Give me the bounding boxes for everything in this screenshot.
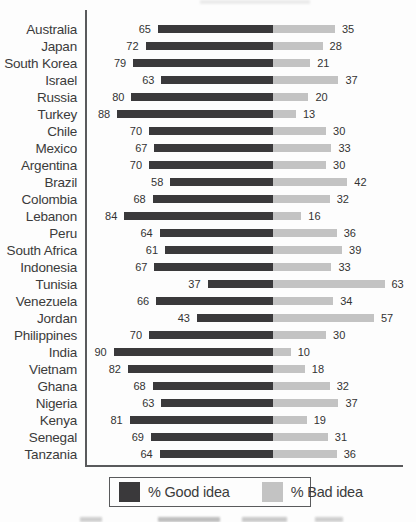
bad-value-label: 20 [315, 89, 327, 106]
good-value-label: 64 [140, 446, 152, 463]
bar-row: Argentina7030 [0, 157, 416, 174]
country-label: Chile [0, 123, 77, 140]
bad-bar [273, 314, 374, 322]
bad-bar [273, 348, 291, 356]
bad-value-label: 39 [349, 242, 361, 259]
bar-row: Tunisia3763 [0, 276, 416, 293]
bar-row: Israel6337 [0, 72, 416, 89]
good-bar [124, 212, 273, 220]
good-bar [130, 416, 273, 424]
good-bar [133, 59, 273, 67]
bad-value-label: 57 [381, 310, 393, 327]
bad-value-label: 37 [345, 395, 357, 412]
country-label: Venezuela [0, 293, 77, 310]
country-label: Senegal [0, 429, 77, 446]
country-label: Brazil [0, 174, 77, 191]
bad-value-label: 34 [340, 293, 352, 310]
bad-value-label: 30 [333, 157, 345, 174]
bad-value-label: 42 [354, 174, 366, 191]
good-bar [161, 76, 273, 84]
country-label: Vietnam [0, 361, 77, 378]
bad-bar [273, 93, 308, 101]
bad-bar [273, 331, 326, 339]
good-bar [151, 433, 273, 441]
country-label: Mexico [0, 140, 77, 157]
bad-bar [273, 25, 335, 33]
good-bar [154, 144, 273, 152]
good-value-label: 80 [112, 89, 124, 106]
bad-idea-swatch-icon [262, 482, 283, 502]
bar-row: Nigeria6337 [0, 395, 416, 412]
bar-row: Lebanon8416 [0, 208, 416, 225]
bar-row: Brazil5842 [0, 174, 416, 191]
bar-row: South Korea7921 [0, 55, 416, 72]
country-label: Israel [0, 72, 77, 89]
good-bar [165, 246, 273, 254]
good-value-label: 65 [139, 21, 151, 38]
legend-item-good: % Good idea [119, 482, 230, 502]
x-axis-line [85, 465, 403, 467]
bad-value-label: 32 [337, 191, 349, 208]
good-value-label: 63 [142, 395, 154, 412]
bad-value-label: 33 [338, 259, 350, 276]
bar-row: South Africa6139 [0, 242, 416, 259]
bar-row: Peru6436 [0, 225, 416, 242]
diverging-bar-chart-figure: Australia6535Japan7228South Korea7921Isr… [0, 0, 416, 522]
good-bar [117, 110, 273, 118]
good-value-label: 58 [151, 174, 163, 191]
country-label: Turkey [0, 106, 77, 123]
bad-value-label: 35 [342, 21, 354, 38]
legend-label-bad: % Bad idea [291, 484, 363, 500]
good-value-label: 88 [98, 106, 110, 123]
good-bar [156, 297, 273, 305]
good-value-label: 90 [94, 344, 106, 361]
good-value-label: 82 [109, 361, 121, 378]
bad-value-label: 36 [344, 225, 356, 242]
good-bar [170, 178, 273, 186]
good-bar [114, 348, 273, 356]
bad-bar [273, 161, 326, 169]
bad-bar [273, 76, 338, 84]
bar-row: Tanzania6436 [0, 446, 416, 463]
country-label: India [0, 344, 77, 361]
good-bar [128, 365, 273, 373]
bad-value-label: 18 [312, 361, 324, 378]
country-label: Kenya [0, 412, 77, 429]
good-value-label: 63 [142, 72, 154, 89]
country-label: South Korea [0, 55, 77, 72]
bad-bar [273, 263, 331, 271]
good-bar [158, 25, 273, 33]
country-label: Argentina [0, 157, 77, 174]
country-label: Nigeria [0, 395, 77, 412]
bad-bar [273, 433, 328, 441]
bad-bar [273, 178, 347, 186]
good-value-label: 37 [188, 276, 200, 293]
bad-bar [273, 399, 338, 407]
bad-bar [273, 59, 310, 67]
bar-row: Colombia6832 [0, 191, 416, 208]
country-label: Tunisia [0, 276, 77, 293]
bad-value-label: 33 [338, 140, 350, 157]
good-bar [197, 314, 273, 322]
bar-row: Jordan4357 [0, 310, 416, 327]
bad-bar [273, 195, 330, 203]
good-bar [149, 127, 273, 135]
bad-bar [273, 416, 307, 424]
bar-row: Ghana6832 [0, 378, 416, 395]
bad-value-label: 30 [333, 327, 345, 344]
good-value-label: 81 [110, 412, 122, 429]
bad-bar [273, 280, 385, 288]
good-value-label: 68 [133, 378, 145, 395]
good-bar [161, 399, 273, 407]
bar-row: India9010 [0, 344, 416, 361]
bad-value-label: 28 [330, 38, 342, 55]
good-value-label: 66 [137, 293, 149, 310]
bad-value-label: 63 [392, 276, 404, 293]
good-bar [160, 450, 273, 458]
bar-row: Kenya8119 [0, 412, 416, 429]
country-label: Tanzania [0, 446, 77, 463]
country-label: South Africa [0, 242, 77, 259]
bad-bar [273, 365, 305, 373]
bad-value-label: 21 [317, 55, 329, 72]
good-bar [154, 263, 273, 271]
